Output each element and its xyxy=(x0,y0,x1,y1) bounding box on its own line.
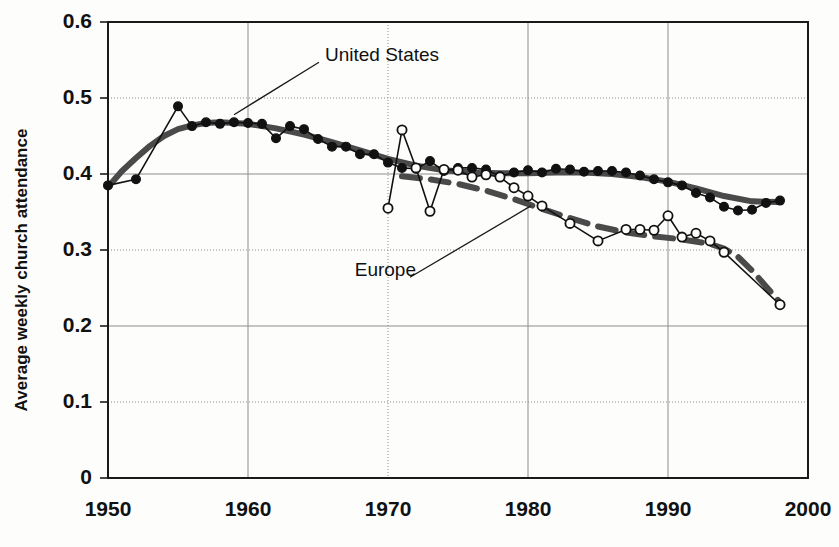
data-point-marker xyxy=(188,122,197,131)
data-point-marker xyxy=(677,232,686,241)
data-point-marker xyxy=(356,150,365,159)
data-point-marker xyxy=(202,118,211,127)
data-point-marker xyxy=(384,158,393,167)
x-tick-label: 2000 xyxy=(785,497,832,520)
x-tick-label: 1970 xyxy=(365,497,412,520)
data-point-marker xyxy=(244,119,253,128)
data-point-marker xyxy=(565,219,574,228)
data-point-marker xyxy=(775,300,784,309)
data-point-marker xyxy=(453,166,462,175)
y-tick-label: 0 xyxy=(80,465,92,488)
data-point-marker xyxy=(537,201,546,210)
data-point-marker xyxy=(398,164,407,173)
data-point-marker xyxy=(705,236,714,245)
x-tick-label: 1960 xyxy=(225,497,272,520)
y-tick-label: 0.5 xyxy=(63,85,93,108)
data-point-marker xyxy=(678,181,687,190)
data-point-marker xyxy=(594,167,603,176)
data-point-marker xyxy=(397,125,406,134)
data-point-marker xyxy=(230,118,239,127)
annotation-label: Europe xyxy=(355,259,416,280)
data-point-marker xyxy=(664,178,673,187)
data-point-marker xyxy=(272,134,281,143)
data-point-marker xyxy=(635,225,644,234)
data-point-marker xyxy=(425,207,434,216)
data-point-marker xyxy=(720,202,729,211)
y-axis-title: Average weekly church attendance xyxy=(12,129,31,412)
data-point-marker xyxy=(286,122,295,131)
y-tick-label: 0.2 xyxy=(63,313,92,336)
x-tick-label: 1990 xyxy=(645,497,692,520)
data-point-marker xyxy=(495,172,504,181)
y-axis-title-text: Average weekly church attendance xyxy=(12,129,31,412)
data-point-marker xyxy=(300,125,309,134)
chart-background xyxy=(0,0,839,547)
x-tick-label: 1950 xyxy=(85,497,132,520)
annotation-label: United States xyxy=(325,44,439,65)
data-point-marker xyxy=(383,204,392,213)
data-point-marker xyxy=(734,206,743,215)
data-point-marker xyxy=(608,167,617,176)
y-tick-label: 0.3 xyxy=(63,237,92,260)
data-point-marker xyxy=(411,163,420,172)
data-point-marker xyxy=(650,175,659,184)
data-point-marker xyxy=(692,189,701,198)
data-point-marker xyxy=(622,168,631,177)
data-point-marker xyxy=(719,248,728,257)
data-point-marker xyxy=(258,119,267,128)
data-point-marker xyxy=(621,225,630,234)
y-tick-label: 0.6 xyxy=(63,9,92,32)
x-tick-label: 1980 xyxy=(505,497,552,520)
data-point-marker xyxy=(439,165,448,174)
data-point-marker xyxy=(426,157,435,166)
data-point-marker xyxy=(762,198,771,207)
data-point-marker xyxy=(509,183,518,192)
data-point-marker xyxy=(691,229,700,238)
data-point-marker xyxy=(510,168,519,177)
y-tick-label: 0.1 xyxy=(63,389,93,412)
data-point-marker xyxy=(636,171,645,180)
data-point-marker xyxy=(580,167,589,176)
data-point-marker xyxy=(132,175,141,184)
chart-container: United StatesEurope 00.10.20.30.40.50.6 … xyxy=(0,0,839,547)
data-point-marker xyxy=(593,236,602,245)
data-point-marker xyxy=(174,102,183,111)
data-point-marker xyxy=(538,168,547,177)
data-point-marker xyxy=(468,164,477,173)
data-point-marker xyxy=(370,150,379,159)
data-point-marker xyxy=(104,181,113,190)
data-point-marker xyxy=(663,211,672,220)
data-point-marker xyxy=(776,196,785,205)
data-point-marker xyxy=(342,142,351,151)
data-point-marker xyxy=(552,164,561,173)
data-point-marker xyxy=(314,135,323,144)
y-tick-label: 0.4 xyxy=(63,161,93,184)
data-point-marker xyxy=(216,119,225,128)
church-attendance-line-chart: United StatesEurope 00.10.20.30.40.50.6 … xyxy=(0,0,839,547)
data-point-marker xyxy=(566,165,575,174)
data-point-marker xyxy=(523,191,532,200)
data-point-marker xyxy=(467,172,476,181)
data-point-marker xyxy=(706,193,715,202)
data-point-marker xyxy=(748,205,757,214)
data-point-marker xyxy=(524,166,533,175)
data-point-marker xyxy=(328,142,337,151)
data-point-marker xyxy=(649,226,658,235)
data-point-marker xyxy=(481,170,490,179)
